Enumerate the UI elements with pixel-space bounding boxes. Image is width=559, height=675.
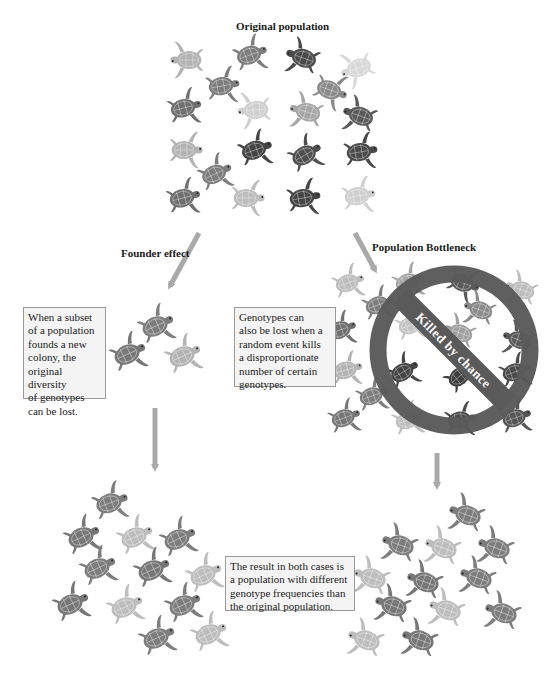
turtle-icon bbox=[236, 90, 272, 129]
founder-description: When a subset of a population founds a n… bbox=[23, 307, 106, 399]
description-line: can be lost. bbox=[28, 405, 101, 418]
turtle-icon bbox=[280, 35, 323, 81]
turtle-icon bbox=[283, 130, 330, 178]
original-population bbox=[164, 32, 381, 220]
turtle-icon bbox=[423, 586, 469, 634]
turtle-icon bbox=[170, 42, 203, 79]
turtle-icon bbox=[376, 521, 422, 569]
description-line: of a population bbox=[28, 324, 101, 337]
turtle-icon bbox=[329, 261, 370, 304]
turtle-icon bbox=[337, 93, 380, 139]
turtle-icon bbox=[194, 150, 239, 197]
turtle-icon bbox=[369, 582, 415, 630]
turtle-icon bbox=[204, 65, 243, 107]
turtle-icon bbox=[234, 127, 277, 173]
turtle-icon bbox=[105, 329, 153, 378]
turtle-icon bbox=[170, 132, 203, 169]
turtle-icon bbox=[160, 331, 208, 380]
turtle-icon bbox=[443, 491, 489, 539]
description-line: a disproportionate bbox=[239, 351, 331, 364]
turtle-icon bbox=[102, 582, 150, 631]
turtle-icon bbox=[342, 616, 388, 664]
turtle-icon bbox=[285, 177, 324, 219]
turtle-icon bbox=[401, 558, 447, 606]
founder-effect-label: Founder effect bbox=[121, 247, 190, 259]
turtle-icon bbox=[160, 580, 208, 629]
description-line: When a subset bbox=[28, 311, 101, 324]
turtle-icon bbox=[335, 46, 378, 92]
result-population-left bbox=[48, 479, 234, 663]
turtle-icon bbox=[325, 396, 366, 439]
arrow-icon bbox=[170, 233, 199, 286]
turtle-icon bbox=[88, 479, 134, 527]
description-line: genotype frequencies than bbox=[230, 587, 350, 600]
turtle-icon bbox=[186, 609, 234, 658]
founder-colony bbox=[105, 301, 208, 380]
result-description: The result in both cases is a population… bbox=[225, 556, 355, 611]
turtle-icon bbox=[229, 32, 272, 78]
turtle-icon bbox=[454, 554, 500, 602]
turtle-icon bbox=[155, 514, 203, 563]
turtle-icon bbox=[479, 589, 525, 637]
description-line: The result in both cases is bbox=[230, 560, 350, 573]
turtle-icon bbox=[133, 301, 181, 350]
description-line: founds a new bbox=[28, 338, 101, 351]
turtle-icon bbox=[75, 543, 123, 592]
bottleneck-label: Population Bottleneck bbox=[372, 241, 476, 253]
turtle-icon bbox=[396, 616, 442, 664]
turtle-icon bbox=[342, 131, 381, 173]
description-line: colony, the bbox=[28, 351, 101, 364]
description-line: Genotypes can bbox=[239, 311, 331, 324]
turtle-icon bbox=[164, 176, 205, 220]
description-line: original diversity bbox=[28, 365, 101, 392]
description-line: the original population. bbox=[230, 600, 350, 613]
description-line: genotypes. bbox=[239, 378, 331, 391]
description-line: of genotypes bbox=[28, 391, 101, 404]
bottleneck-description: Genotypes can also be lost when a random… bbox=[234, 307, 336, 387]
description-line: random event kills bbox=[239, 338, 331, 351]
turtle-icon bbox=[48, 579, 96, 628]
turtle-icon bbox=[232, 180, 265, 217]
description-line: a population with different bbox=[230, 573, 350, 586]
turtle-icon bbox=[419, 524, 465, 572]
description-line: also be lost when a bbox=[239, 324, 331, 337]
turtle-icon bbox=[165, 86, 206, 130]
turtle-icon bbox=[285, 90, 326, 134]
turtle-icon bbox=[472, 524, 518, 572]
diagram-title: Original population bbox=[236, 20, 329, 32]
result-population-right bbox=[342, 491, 525, 664]
turtle-icon bbox=[340, 175, 379, 217]
turtle-icon bbox=[181, 550, 229, 599]
description-line: number of certain bbox=[239, 365, 331, 378]
